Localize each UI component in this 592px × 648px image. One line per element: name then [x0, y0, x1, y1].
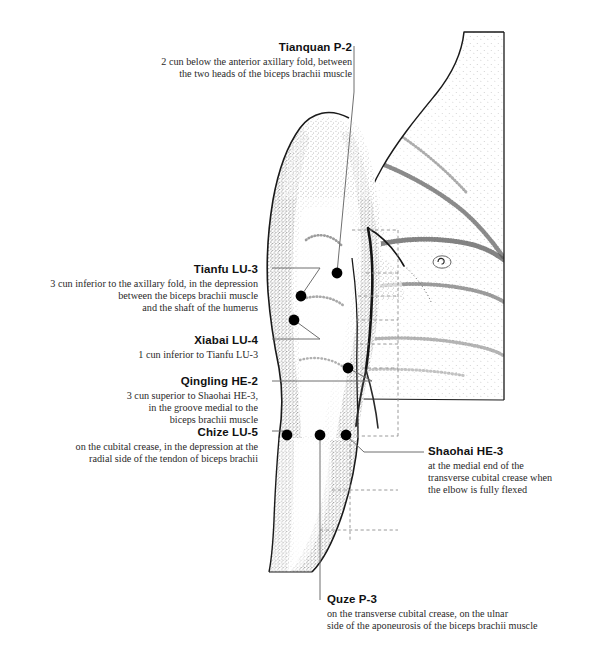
label-chize: Chize LU-5 on the cubital crease, in the…: [0, 425, 258, 465]
label-shaohai-title: Shaohai HE-3: [428, 444, 592, 458]
label-tianfu-desc: 3 cun inferior to the axillary fold, in …: [0, 278, 258, 315]
label-chize-desc: on the cubital crease, in the depression…: [0, 441, 258, 466]
acupoint-shaohai[interactable]: Shaohai HE-3: [341, 430, 352, 441]
forearm-group: [255, 430, 375, 580]
anatomy-figure: Tianquan P-2Tianfu LU-3Xiabai LU-4Qingli…: [0, 0, 592, 648]
label-quze-desc: on the transverse cubital crease, on the…: [327, 608, 592, 633]
label-xiabai-title: Xiabai LU-4: [0, 333, 258, 347]
label-tianfu: Tianfu LU-3 3 cun inferior to the axilla…: [0, 262, 258, 315]
acupoint-quze[interactable]: Quze P-3: [315, 430, 326, 441]
label-tianquan: Tianquan P-2 2 cun below the anterior ax…: [0, 40, 352, 80]
label-qingling-title: Qingling HE-2: [0, 374, 258, 388]
acupoint-chize[interactable]: Chize LU-5: [282, 430, 293, 441]
acupoint-qingling[interactable]: Qingling HE-2: [343, 363, 354, 374]
label-qingling-desc: 3 cun superior to Shaohai HE-3,in the gr…: [0, 390, 258, 427]
label-quze: Quze P-3 on the transverse cubital creas…: [327, 592, 592, 632]
label-tianfu-title: Tianfu LU-3: [0, 262, 258, 276]
label-qingling: Qingling HE-2 3 cun superior to Shaohai …: [0, 374, 258, 427]
label-tianquan-desc: 2 cun below the anterior axillary fold, …: [0, 56, 352, 81]
acupoint-tianfu[interactable]: Tianfu LU-3: [296, 291, 307, 302]
label-shaohai-desc: at the medial end of thetransverse cubit…: [428, 460, 592, 497]
label-xiabai: Xiabai LU-4 1 cun inferior to Tianfu LU-…: [0, 333, 258, 361]
label-tianquan-title: Tianquan P-2: [0, 40, 352, 54]
label-shaohai: Shaohai HE-3 at the medial end of thetra…: [428, 444, 592, 497]
acupoint-tianquan[interactable]: Tianquan P-2: [332, 268, 343, 279]
label-quze-title: Quze P-3: [327, 592, 592, 606]
label-chize-title: Chize LU-5: [0, 425, 258, 439]
label-xiabai-desc: 1 cun inferior to Tianfu LU-3: [0, 349, 258, 361]
acupoint-xiabai[interactable]: Xiabai LU-4: [289, 315, 300, 326]
